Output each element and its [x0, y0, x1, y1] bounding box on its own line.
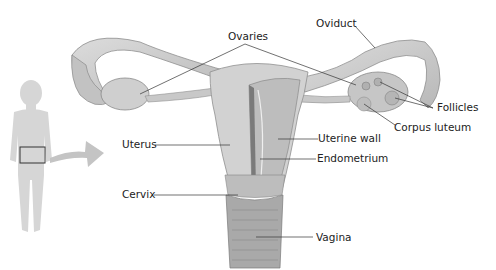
- label-oviduct: Oviduct: [316, 18, 357, 29]
- left-ovarian-ligament: [145, 88, 215, 102]
- label-follicles: Follicles: [437, 102, 478, 113]
- label-uterus: Uterus: [122, 139, 157, 150]
- label-ovaries: Ovaries: [228, 31, 268, 42]
- left-ovary: [101, 78, 149, 110]
- follicle: [362, 82, 370, 90]
- label-cervix: Cervix: [122, 189, 155, 200]
- vagina: [226, 195, 283, 268]
- diagram: Ovaries Oviduct Follicles Corpus luteum …: [0, 0, 496, 270]
- human-silhouette: [10, 80, 52, 232]
- zoom-arrow: [50, 141, 104, 167]
- label-endometrium: Endometrium: [317, 153, 388, 164]
- follicle: [374, 78, 382, 86]
- cervix: [225, 175, 285, 198]
- label-corpus-luteum: Corpus luteum: [394, 122, 471, 133]
- right-ovarian-ligament: [300, 95, 350, 103]
- follicle: [385, 91, 399, 105]
- label-vagina: Vagina: [316, 232, 351, 243]
- label-uterine-wall: Uterine wall: [318, 133, 381, 144]
